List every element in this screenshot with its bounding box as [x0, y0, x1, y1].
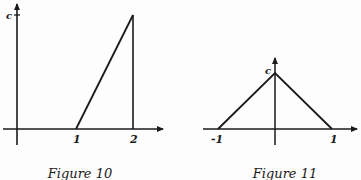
fig10-c-label: c — [6, 10, 12, 21]
fig11-tick-1: 1 — [330, 133, 338, 146]
fig11-tick-neg1: -1 — [211, 133, 223, 146]
fig10-caption: Figure 10 — [47, 166, 112, 180]
figure-11: c -1 1 Figure 11 — [203, 58, 357, 180]
figure-10: c 1 2 Figure 10 — [3, 4, 163, 180]
fig11-caption: Figure 11 — [252, 166, 317, 180]
fig10-tick-2: 2 — [129, 133, 138, 146]
diagram-canvas: c 1 2 Figure 10 c -1 1 Figure 11 — [0, 0, 361, 180]
fig10-slope-line — [76, 15, 133, 129]
fig11-c-label: c — [265, 65, 271, 76]
figure-pair: c 1 2 Figure 10 c -1 1 Figure 11 — [0, 0, 361, 180]
fig10-tick-1: 1 — [73, 133, 81, 146]
